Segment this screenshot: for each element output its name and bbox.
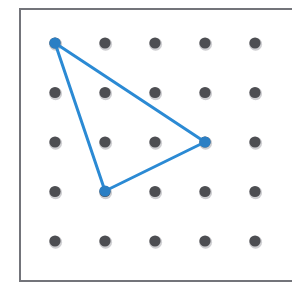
triangle-vertex-b[interactable] xyxy=(199,136,210,147)
triangle-shape xyxy=(49,37,210,196)
peg-r3c0[interactable] xyxy=(49,186,60,197)
geoboard-figure xyxy=(0,0,292,291)
peg-r3c2[interactable] xyxy=(149,186,160,197)
peg-r4c4[interactable] xyxy=(249,235,260,246)
peg-r4c0[interactable] xyxy=(49,235,60,246)
peg-r2c2[interactable] xyxy=(149,136,160,147)
peg-r3c3[interactable] xyxy=(199,186,210,197)
peg-grid xyxy=(49,37,262,248)
peg-r1c2[interactable] xyxy=(149,87,160,98)
triangle-edge-c-a[interactable] xyxy=(55,43,105,191)
peg-r1c4[interactable] xyxy=(249,87,260,98)
peg-r1c0[interactable] xyxy=(49,87,60,98)
peg-r0c3[interactable] xyxy=(199,37,210,48)
peg-r2c0[interactable] xyxy=(49,136,60,147)
peg-r0c1[interactable] xyxy=(99,37,110,48)
triangle-edge-a-b[interactable] xyxy=(55,43,205,142)
peg-r3c4[interactable] xyxy=(249,186,260,197)
triangle-vertex-c[interactable] xyxy=(99,185,110,196)
peg-r1c1[interactable] xyxy=(99,87,110,98)
peg-r2c1[interactable] xyxy=(99,136,110,147)
board-canvas xyxy=(0,0,292,291)
peg-r4c1[interactable] xyxy=(99,235,110,246)
peg-r1c3[interactable] xyxy=(199,87,210,98)
peg-r0c4[interactable] xyxy=(249,37,260,48)
peg-r0c2[interactable] xyxy=(149,37,160,48)
peg-r2c4[interactable] xyxy=(249,136,260,147)
peg-r4c2[interactable] xyxy=(149,235,160,246)
triangle-vertex-a[interactable] xyxy=(49,37,60,48)
peg-r4c3[interactable] xyxy=(199,235,210,246)
